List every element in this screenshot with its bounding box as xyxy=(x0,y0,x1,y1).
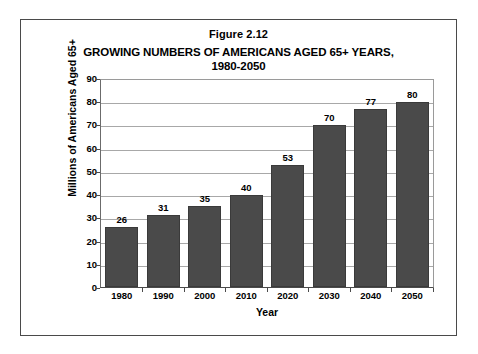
y-axis-tick-label: 40 xyxy=(75,190,97,200)
y-axis-tick-label: 70 xyxy=(75,120,97,130)
y-axis-tick-label: 20 xyxy=(75,237,97,247)
x-axis-tick-labels: 19801990200020102020203020402050 xyxy=(101,290,433,304)
x-axis-tick-label: 2020 xyxy=(267,290,309,304)
x-axis-tick-label: 1990 xyxy=(143,290,185,304)
x-axis-tick-label: 2010 xyxy=(226,290,268,304)
x-axis-title: Year xyxy=(100,306,434,318)
y-axis-tick-label: 80 xyxy=(75,97,97,107)
bar[interactable] xyxy=(313,125,346,287)
bar-slot: 53 xyxy=(267,79,309,287)
bar-value-label: 80 xyxy=(392,89,434,100)
y-axis-tick-label: 90 xyxy=(75,74,97,84)
x-axis-tick-label: 2050 xyxy=(392,290,434,304)
bar-value-label: 31 xyxy=(143,202,185,213)
bar-value-label: 35 xyxy=(184,193,226,204)
bar[interactable] xyxy=(188,206,221,287)
x-axis-tick-label: 2000 xyxy=(184,290,226,304)
figure-frame: Figure 2.12 GROWING NUMBERS OF AMERICANS… xyxy=(20,19,457,336)
chart-title-line-2: 1980-2050 xyxy=(21,59,456,73)
bar-slot: 40 xyxy=(226,79,268,287)
bar[interactable] xyxy=(354,109,387,287)
y-axis-tick-label: 60 xyxy=(75,144,97,154)
bar-value-label: 26 xyxy=(101,214,143,225)
bar-value-label: 70 xyxy=(309,112,351,123)
y-axis-tick-mark xyxy=(96,288,100,289)
bar-value-label: 77 xyxy=(350,96,392,107)
bar-value-label: 40 xyxy=(226,182,268,193)
bar[interactable] xyxy=(396,102,429,287)
bar[interactable] xyxy=(147,215,180,287)
x-axis-tick-label: 2030 xyxy=(309,290,351,304)
bar-slot: 31 xyxy=(143,79,185,287)
bar-slot: 70 xyxy=(309,79,351,287)
bar-slot: 80 xyxy=(392,79,434,287)
chart-title: GROWING NUMBERS OF AMERICANS AGED 65+ YE… xyxy=(21,45,456,73)
x-axis-tick-label: 2040 xyxy=(350,290,392,304)
bar[interactable] xyxy=(271,165,304,287)
x-axis-tick-label: 1980 xyxy=(101,290,143,304)
y-axis-tick-label: 50 xyxy=(75,167,97,177)
y-axis-tick-label: 10 xyxy=(75,260,97,270)
bar-value-label: 53 xyxy=(267,152,309,163)
y-axis-tick-label: 0 xyxy=(75,283,97,293)
bar[interactable] xyxy=(105,227,138,287)
bar[interactable] xyxy=(230,195,263,287)
y-axis-tick-label: 30 xyxy=(75,213,97,223)
y-axis-tick-labels: 9080706050403020100 xyxy=(71,79,97,288)
figure-number: Figure 2.12 xyxy=(21,28,456,40)
chart-title-line-1: GROWING NUMBERS OF AMERICANS AGED 65+ YE… xyxy=(83,46,394,58)
bar-slot: 26 xyxy=(101,79,143,287)
bar-slot: 77 xyxy=(350,79,392,287)
bar-slot: 35 xyxy=(184,79,226,287)
bar-series: 2631354053707780 xyxy=(101,79,433,287)
